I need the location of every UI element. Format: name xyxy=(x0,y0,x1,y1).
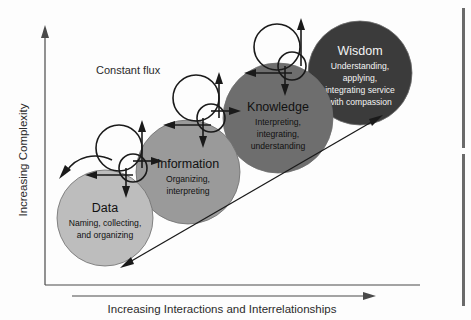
bubble-information-line-2: interpreting xyxy=(167,186,210,196)
x-axis-label: Increasing Interactions and Interrelatio… xyxy=(108,303,337,315)
bubble-data: Data Naming, collecting, and organizing xyxy=(57,170,153,266)
figure-container: Wisdom Understanding, applying, integrat… xyxy=(0,0,471,320)
bubble-information-title: Information xyxy=(157,157,220,171)
bubble-wisdom-line-4: with compassion xyxy=(327,97,392,107)
bubble-knowledge-line-3: understanding xyxy=(251,141,306,151)
right-border-rule-gap xyxy=(462,148,465,154)
bubble-knowledge: Knowledge Interpreting, integrating, und… xyxy=(223,63,333,173)
bubble-wisdom-line-2: applying, xyxy=(343,73,377,83)
bubble-information-line-1: Organizing, xyxy=(166,174,210,184)
bubble-wisdom-line-1: Understanding, xyxy=(331,61,389,71)
right-border-rule xyxy=(462,8,465,306)
bubble-knowledge-title: Knowledge xyxy=(247,100,309,114)
permission-credit: Used with the permission of Ramona Nelso… xyxy=(446,0,463,6)
bubble-knowledge-line-2: integrating, xyxy=(257,129,300,139)
bubble-knowledge-line-1: Interpreting, xyxy=(255,117,301,127)
bubble-data-line-2: and organizing xyxy=(77,230,134,240)
y-axis-label: Increasing Complexity xyxy=(17,103,29,216)
constant-flux-label: Constant flux xyxy=(96,64,161,76)
bubble-data-title: Data xyxy=(92,201,118,215)
bubble-wisdom-title: Wisdom xyxy=(337,44,382,58)
y-axis xyxy=(41,25,49,285)
bubble-wisdom-line-3: integrating service xyxy=(325,85,395,95)
x-axis-label-group: Increasing Interactions and Interrelatio… xyxy=(72,292,376,315)
dikw-diagram: Wisdom Understanding, applying, integrat… xyxy=(0,0,471,320)
bubble-data-line-1: Naming, collecting, xyxy=(69,218,142,228)
